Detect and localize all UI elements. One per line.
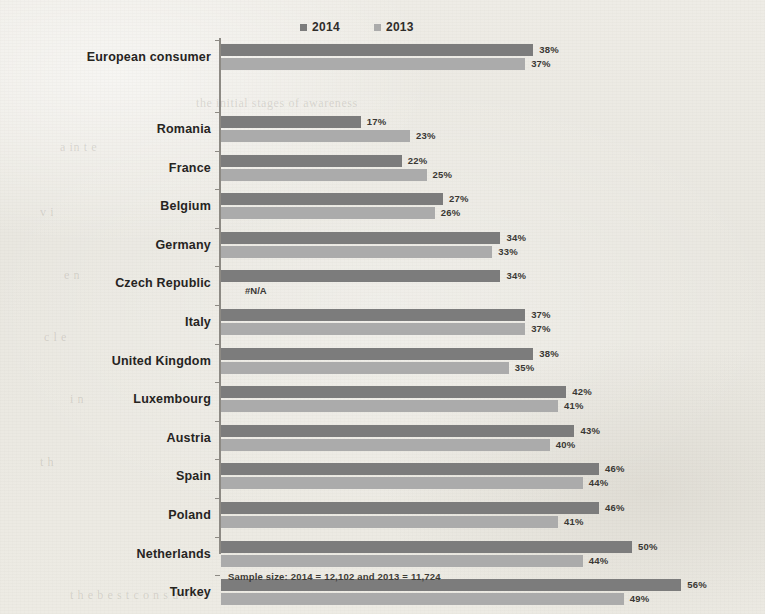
axis-tick (215, 382, 220, 383)
category-label: Italy (1, 315, 211, 329)
plot-area: 38%37%17%23%22%25%27%26%34%33%34%#N/A37%… (219, 38, 715, 554)
legend-swatch-2013 (374, 24, 381, 31)
bar-2014[interactable] (221, 463, 599, 475)
bar-value-label-2014: 56% (687, 579, 707, 590)
bar-2014[interactable] (221, 348, 533, 360)
bar-2014[interactable] (221, 155, 402, 167)
bar-value-label-2013: 35% (515, 362, 535, 373)
bar-2014[interactable] (221, 232, 500, 244)
bar-value-label-2014: 43% (580, 425, 600, 436)
bar-2013[interactable] (221, 207, 435, 219)
category-label: Belgium (1, 199, 211, 213)
axis-tick (215, 266, 220, 267)
bar-value-label-2013: 49% (630, 593, 650, 604)
bar-value-label-2014: 50% (638, 541, 658, 552)
bar-2014[interactable] (221, 502, 599, 514)
axis-tick (215, 189, 220, 190)
axis-tick (215, 228, 220, 229)
bar-value-label-2014: 34% (506, 270, 526, 281)
bar-value-label-2013: 41% (564, 400, 584, 411)
axis-tick (215, 421, 220, 422)
category-label: Poland (1, 508, 211, 522)
bar-2013[interactable] (221, 555, 583, 567)
bar-2013[interactable] (221, 58, 525, 70)
category-axis-labels: European consumerRomaniaFranceBelgiumGer… (0, 38, 211, 554)
bar-value-label-2014: 46% (605, 463, 625, 474)
bar-value-label-2013: 44% (589, 555, 609, 566)
bar-value-label-2014: 38% (539, 348, 559, 359)
bar-2014[interactable] (221, 425, 574, 437)
bar-value-label-2013: 25% (433, 169, 453, 180)
bar-2013[interactable] (221, 439, 550, 451)
axis-tick (215, 575, 220, 576)
bar-value-label-2013: 37% (531, 323, 551, 334)
bar-value-label-2013: 26% (441, 207, 461, 218)
category-label: United Kingdom (1, 354, 211, 368)
category-label: France (1, 161, 211, 175)
legend-label-2013: 2013 (386, 20, 414, 34)
bar-2014[interactable] (221, 541, 632, 553)
bar-2014[interactable] (221, 193, 443, 205)
category-label: Netherlands (1, 547, 211, 561)
category-label: Turkey (1, 585, 211, 599)
bar-value-label-2014: 27% (449, 193, 469, 204)
legend-label-2014: 2014 (312, 20, 340, 34)
bar-value-label-2014: 38% (539, 44, 559, 55)
category-label: Austria (1, 431, 211, 445)
bar-2013[interactable] (221, 169, 427, 181)
category-label: European consumer (1, 50, 211, 64)
axis-tick (215, 112, 220, 113)
category-label: Germany (1, 238, 211, 252)
bar-2014[interactable] (221, 270, 500, 282)
bar-2013[interactable] (221, 516, 558, 528)
axis-tick (215, 537, 220, 538)
bar-2014[interactable] (221, 309, 525, 321)
legend-item-2014[interactable]: 2014 (300, 20, 340, 34)
axis-tick (215, 305, 220, 306)
legend-swatch-2014 (300, 24, 307, 31)
bar-value-label-2013: 40% (556, 439, 576, 450)
bar-2013[interactable] (221, 477, 583, 489)
axis-tick (215, 459, 220, 460)
bar-value-label-2013: 33% (498, 246, 518, 257)
bar-2013[interactable] (221, 593, 624, 605)
category-label: Czech Republic (1, 276, 211, 290)
bar-value-label-2014: 42% (572, 386, 592, 397)
bar-2013[interactable] (221, 362, 509, 374)
bar-value-label-2014: 22% (408, 155, 428, 166)
bar-2013[interactable] (221, 246, 492, 258)
bar-2013[interactable] (221, 130, 410, 142)
bar-value-label-2013: 41% (564, 516, 584, 527)
chart-legend: 2014 2013 (300, 20, 414, 34)
legend-item-2013[interactable]: 2013 (374, 20, 414, 34)
bar-2014[interactable] (221, 386, 566, 398)
axis-tick (215, 498, 220, 499)
bar-2013[interactable] (221, 323, 525, 335)
bar-value-label-2013: 23% (416, 130, 436, 141)
na-marker-2013: #N/A (245, 285, 267, 296)
sample-size-footnote: Sample size: 2014 = 12,102 and 2013 = 11… (228, 571, 441, 582)
bar-value-label-2013: 44% (589, 477, 609, 488)
category-label: Spain (1, 469, 211, 483)
grouped-bar-chart: 2014 2013 European consumerRomaniaFrance… (0, 0, 765, 614)
bar-value-label-2014: 17% (367, 116, 387, 127)
axis-tick (215, 40, 220, 41)
bar-2014[interactable] (221, 44, 533, 56)
bar-value-label-2014: 37% (531, 309, 551, 320)
bar-value-label-2014: 46% (605, 502, 625, 513)
category-label: Luxembourg (1, 392, 211, 406)
axis-tick (215, 151, 220, 152)
bar-2014[interactable] (221, 116, 361, 128)
category-label: Romania (1, 122, 211, 136)
bar-value-label-2014: 34% (506, 232, 526, 243)
axis-tick (215, 344, 220, 345)
bar-2013[interactable] (221, 400, 558, 412)
bar-value-label-2013: 37% (531, 58, 551, 69)
